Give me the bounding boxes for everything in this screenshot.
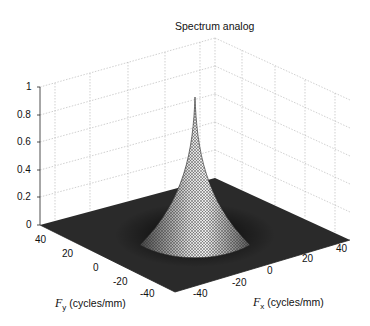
y-tick-neg40: -40 [140, 288, 154, 299]
x-tick-neg40: -40 [193, 288, 207, 299]
y-tick-neg20: -20 [113, 276, 127, 287]
z-tick-0.4: 0.4 [17, 164, 31, 175]
x-tick-neg20: -20 [232, 277, 246, 288]
chart-title: Spectrum analog [175, 20, 254, 32]
z-tick-0.8: 0.8 [17, 109, 31, 120]
x-tick-40: 40 [336, 243, 347, 254]
x-tick-0: 0 [267, 265, 273, 276]
x-axis-label: Fx (cycles/mm) [253, 295, 324, 311]
y-tick-20: 20 [62, 248, 73, 259]
y-axis-label: Fy (cycles/mm) [55, 296, 126, 312]
z-tick-0.2: 0.2 [17, 191, 31, 202]
y-tick-40: 40 [35, 234, 46, 245]
z-axis [37, 87, 40, 225]
z-tick-1: 1 [26, 81, 32, 92]
x-tick-20: 20 [302, 253, 313, 264]
y-tick-0: 0 [93, 262, 99, 273]
z-tick-0: 0 [26, 219, 32, 230]
figure: Spectrum analog 1 0.8 0.6 0.4 0.2 0 40 2… [0, 0, 370, 326]
surface-plot [0, 0, 370, 326]
z-tick-0.6: 0.6 [17, 136, 31, 147]
